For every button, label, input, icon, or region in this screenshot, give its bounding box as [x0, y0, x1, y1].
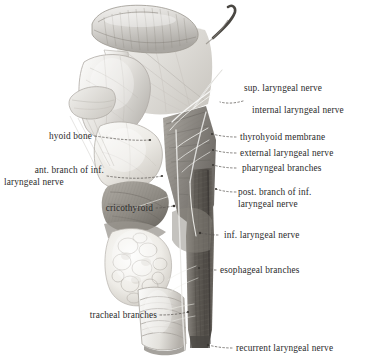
epiglottis	[92, 5, 198, 53]
leader-external-laryngeal	[213, 150, 236, 153]
label-internal-laryngeal-nerve: internal laryngeal nerve	[252, 105, 344, 116]
label-post-branch-line1: post. branch of inf.	[238, 187, 312, 198]
label-inf-laryngeal-nerve: inf. laryngeal nerve	[224, 230, 300, 241]
leader-pharyngeal	[213, 165, 236, 168]
label-recurrent-laryngeal-nerve: recurrent laryngeal nerve	[236, 343, 333, 354]
label-external-laryngeal-nerve: external laryngeal nerve	[240, 148, 333, 159]
label-post-branch-line2: laryngeal nerve	[238, 199, 298, 210]
label-esophageal-branches: esophageal branches	[220, 265, 300, 276]
label-pharyngeal-branches: pharyngeal branches	[242, 163, 322, 174]
leader-recurrent	[208, 345, 232, 348]
label-cricothyroid: cricothyroid	[0, 203, 153, 214]
leader-thyrohyoid	[212, 134, 236, 137]
leader-internal-laryngeal	[220, 101, 243, 103]
label-thyrohyoid-membrane: thyrohyoid membrane	[240, 132, 325, 143]
label-hyoid-bone: hyoid bone	[0, 131, 92, 142]
label-tracheal-branches: tracheal branches	[0, 310, 157, 321]
label-ant-branch-line2: laryngeal nerve	[0, 177, 108, 188]
label-sup-laryngeal-nerve: sup. laryngeal nerve	[244, 83, 322, 94]
label-ant-branch-line1: ant. branch of inf.	[0, 165, 104, 176]
leader-post-branch	[216, 189, 236, 192]
superior-cornu-hook	[206, 6, 235, 44]
anatomy-figure: sup. laryngeal nerve internal laryngeal …	[0, 0, 385, 363]
trachea	[138, 287, 186, 355]
